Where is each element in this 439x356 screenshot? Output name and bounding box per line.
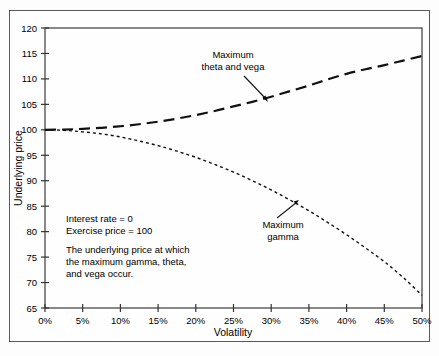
annotation-gamma-line1: Maximum	[262, 219, 303, 230]
x-tick-label: 30%	[262, 315, 282, 326]
annotation-gamma-leader-line	[277, 202, 297, 218]
x-axis-title: Volatility	[214, 326, 253, 338]
y-tick-label: 115	[22, 48, 37, 59]
x-tick-label: 25%	[224, 315, 244, 326]
x-tick-label: 10%	[111, 315, 131, 326]
y-tick-label: 75	[26, 252, 37, 263]
x-tick-label: 0%	[38, 315, 52, 326]
annotation-theta-vega-line2: theta and vega	[202, 61, 266, 72]
x-tick-label: 20%	[186, 315, 206, 326]
y-tick-label: 95	[26, 150, 37, 161]
chart-svg: 65707580859095100105110115120 0%5%10%15%…	[0, 0, 439, 356]
note-description-line3: and vega occur.	[66, 268, 133, 279]
x-tick-label: 35%	[299, 315, 319, 326]
x-axis-tick-labels: 0%5%10%15%20%25%30%35%40%45%50%	[38, 315, 432, 326]
y-tick-label: 65	[26, 303, 37, 314]
x-tick-label: 50%	[412, 315, 432, 326]
note-interest-rate: Interest rate = 0	[66, 213, 133, 224]
annotation-theta-vega-line1: Maximum	[212, 49, 253, 60]
x-tick-label: 45%	[375, 315, 395, 326]
y-tick-label: 70	[26, 277, 37, 288]
x-tick-label: 40%	[337, 315, 357, 326]
y-tick-label: 85	[26, 201, 37, 212]
y-tick-label: 110	[22, 73, 37, 84]
note-exercise-price: Exercise price = 100	[66, 225, 152, 236]
y-tick-label: 120	[21, 23, 37, 34]
y-tick-label: 90	[26, 175, 37, 186]
figure-container: 65707580859095100105110115120 0%5%10%15%…	[0, 0, 439, 356]
note-description-line1: The underlying price at which	[66, 244, 190, 255]
y-tick-label: 105	[21, 99, 37, 110]
y-axis-title: Underlying price	[12, 130, 24, 206]
annotation-theta-vega-leader-line	[244, 76, 267, 100]
y-tick-label: 80	[26, 226, 37, 237]
x-tick-label: 5%	[76, 315, 90, 326]
x-tick-label: 15%	[149, 315, 169, 326]
note-description-line2: the maximum gamma, theta,	[66, 256, 186, 267]
annotation-gamma-line2: gamma	[267, 231, 299, 242]
